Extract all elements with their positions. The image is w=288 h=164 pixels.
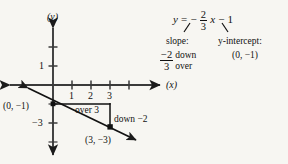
slope-word-over: over [175,61,196,72]
slope-heading: slope: [166,37,189,47]
y-axis-label: (y) [47,12,58,22]
coordinate-plane-svg [0,0,288,164]
slope-fraction: −2 3 [160,49,173,72]
graph-figure: (y) (x) 1 2 3 1 −3 (0, −1) (3, −3) over … [0,0,288,164]
x-axis-label: (x) [166,80,177,90]
intercept-heading: y-intercept: [218,37,262,47]
equation-numerator: 2 [200,9,207,21]
point-label-second-point: (3, −3) [85,136,111,146]
equation-denominator: 3 [200,21,207,32]
slope-denominator: 3 [160,61,173,72]
slope-value: −2 3 down over [160,49,196,72]
y-tick-label-1: 1 [39,61,44,71]
equation-lhs: y [173,13,178,25]
slope-word-down: down [175,50,196,61]
run-label: over 3 [75,106,99,116]
x-axis [10,81,160,90]
point-marker-0-neg1 [51,101,56,106]
equation-x-var: x [210,13,215,25]
point-marker-3-neg3 [107,124,112,129]
y-tick-label-neg3: −3 [32,118,43,128]
equation: y = − 2 3 x − 1 [173,9,233,32]
equation-fraction: 2 3 [200,9,207,32]
slope-words: down over [175,50,196,72]
y-axis [49,28,58,155]
equation-constant: − 1 [218,13,233,25]
x-tick-label-3: 3 [107,91,112,101]
x-tick-label-1: 1 [69,91,74,101]
intercept-value: (0, −1) [232,51,258,61]
equation-equals: = − [181,13,197,25]
slope-numerator: −2 [160,49,173,61]
rise-label: down −2 [114,115,148,125]
point-label-y-intercept: (0, −1) [3,102,29,112]
x-tick-label-2: 2 [88,91,93,101]
